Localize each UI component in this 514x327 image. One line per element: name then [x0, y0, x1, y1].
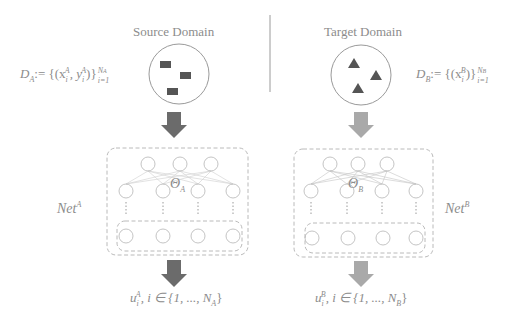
target-input-arrow — [348, 112, 374, 138]
target-data-set — [331, 45, 391, 105]
target-input-layer-box — [305, 223, 425, 253]
source-dataset-formula: DA:= {(xiA, yiA)}NAi=1 — [20, 66, 109, 85]
domain-adaptation-diagram — [0, 0, 514, 327]
target-input-layer — [305, 231, 423, 245]
source-domain-title: Source Domain — [133, 24, 214, 40]
target-sample-triangle — [348, 58, 360, 68]
source-input-layer-box — [117, 221, 242, 251]
target-sample-triangle — [370, 70, 382, 80]
source-input-layer — [119, 229, 240, 243]
source-sample-square — [180, 72, 191, 79]
target-domain-title: Target Domain — [324, 24, 402, 40]
source-params-label: ΘA — [170, 176, 185, 194]
source-network-label: NetA — [57, 200, 81, 217]
source-output-layer — [141, 157, 218, 171]
target-output-label: uiB, i ∈ {1, ..., NB} — [315, 290, 408, 308]
source-ellipsis-dots — [126, 202, 233, 216]
target-connections — [311, 171, 416, 184]
source-output-label: uiA, i ∈ {1, ..., NA} — [130, 290, 223, 308]
target-output-arrow — [348, 261, 374, 287]
source-sample-square — [167, 88, 178, 95]
source-network — [107, 148, 248, 255]
target-sample-triangle — [352, 83, 364, 93]
target-hidden-layer — [304, 184, 423, 198]
target-network-label: NetB — [445, 200, 469, 217]
source-output-arrow — [161, 260, 187, 287]
source-sample-square — [160, 61, 171, 68]
source-input-arrow — [161, 112, 187, 138]
target-dataset-formula: DB:= {(xiB)}NBi=1 — [416, 66, 489, 85]
target-params-label: ΘB — [348, 176, 363, 194]
target-network-box — [294, 149, 433, 257]
target-network — [294, 149, 433, 257]
source-data-set — [149, 44, 209, 104]
target-ellipsis-dots — [311, 202, 416, 216]
target-output-layer — [323, 157, 394, 171]
